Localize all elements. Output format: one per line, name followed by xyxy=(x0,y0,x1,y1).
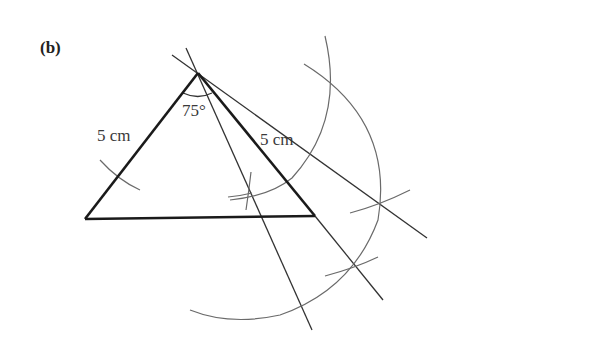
triangle xyxy=(85,73,315,219)
triangle-left-side xyxy=(85,73,198,219)
angle-bisector-line xyxy=(172,55,427,238)
construction-lines xyxy=(172,48,427,330)
right-side-extension-line xyxy=(315,216,383,300)
triangle-base xyxy=(85,216,315,219)
triangle-construction-diagram xyxy=(0,0,602,356)
large-radius-arc xyxy=(190,64,381,319)
compass-arcs xyxy=(100,36,410,319)
